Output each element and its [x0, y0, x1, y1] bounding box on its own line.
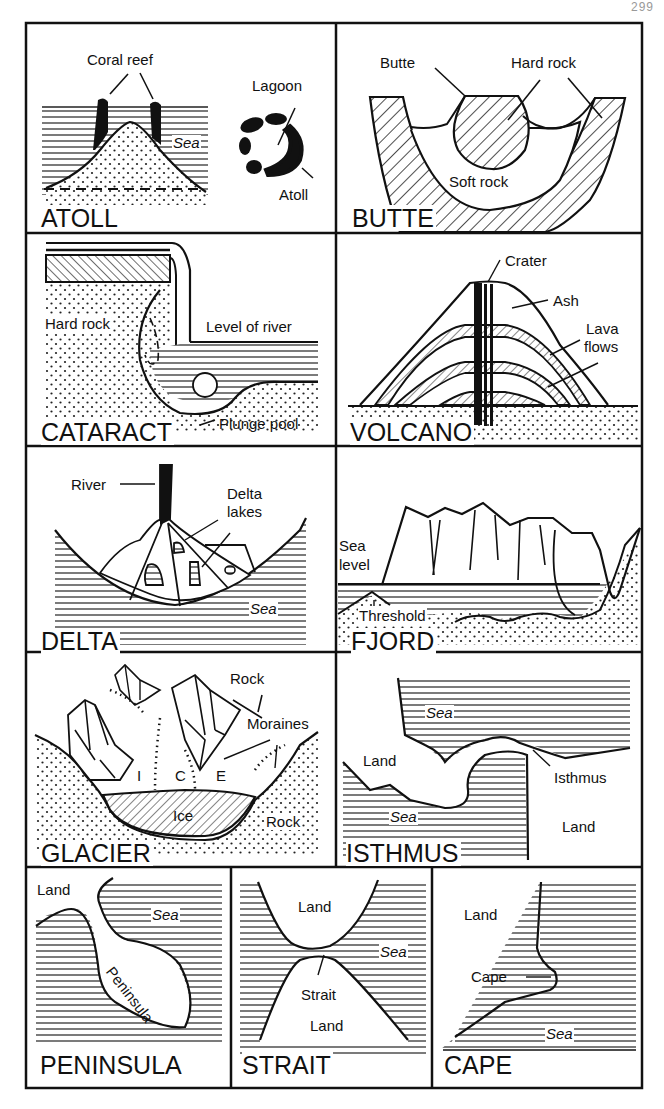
- cape-title: CAPE: [444, 1052, 514, 1078]
- butte-label-butte: Butte: [379, 55, 416, 71]
- fjord-label-threshold: Threshold: [358, 608, 427, 624]
- isthmus-label-sea-bottom: Sea: [389, 809, 418, 825]
- cataract-label-plunge-pool: Plunge pool: [218, 416, 299, 432]
- cape-label-sea: Sea: [545, 1026, 574, 1042]
- volcano-title: VOLCANO: [350, 419, 474, 445]
- delta-label-river: River: [70, 477, 107, 493]
- atoll-label-sea: Sea: [172, 135, 201, 151]
- isthmus-title: ISTHMUS: [346, 840, 461, 866]
- strait-label-land-bottom: Land: [309, 1018, 344, 1034]
- cape-label-cape: Cape: [470, 969, 508, 985]
- butte-label-hard-rock: Hard rock: [510, 55, 577, 71]
- cataract-diagram: [46, 243, 318, 432]
- cape-label-land: Land: [463, 907, 498, 923]
- glacier-label-c: C: [174, 768, 187, 784]
- peninsula-diagram: [36, 878, 222, 1046]
- delta-label-sea: Sea: [249, 601, 278, 617]
- peninsula-label-land: Land: [36, 882, 71, 898]
- fjord-label-level: level: [338, 557, 371, 573]
- atoll-title: ATOLL: [41, 205, 120, 231]
- atoll-label-coral-reef: Coral reef: [86, 52, 154, 68]
- delta-label-delta: Delta: [226, 486, 263, 502]
- isthmus-label-land-right: Land: [561, 819, 596, 835]
- strait-label-strait: Strait: [300, 987, 337, 1003]
- cataract-label-level-of-river: Level of river: [205, 319, 293, 335]
- glacier-label-moraines: Moraines: [246, 716, 310, 732]
- glacier-label-e: E: [215, 768, 227, 784]
- glacier-label-rock-bottom: Rock: [265, 814, 301, 830]
- cataract-label-hard-rock: Hard rock: [44, 316, 111, 332]
- delta-label-lakes: lakes: [226, 504, 263, 520]
- glacier-label-rock-top: Rock: [229, 671, 265, 687]
- volcano-label-ash: Ash: [552, 293, 580, 309]
- atoll-label-lagoon: Lagoon: [251, 78, 303, 94]
- atoll-label-atoll: Atoll: [278, 187, 309, 203]
- isthmus-label-sea-top: Sea: [425, 705, 454, 721]
- fjord-label-sea: Sea: [338, 538, 367, 554]
- strait-label-sea: Sea: [379, 944, 408, 960]
- butte-title: BUTTE: [352, 205, 436, 231]
- volcano-label-flows: flows: [583, 339, 619, 355]
- isthmus-label-isthmus: Isthmus: [553, 770, 608, 786]
- cataract-title: CATARACT: [41, 419, 174, 445]
- butte-label-soft-rock: Soft rock: [448, 174, 509, 190]
- peninsula-label-sea: Sea: [151, 907, 180, 923]
- glacier-label-ice: Ice: [172, 808, 194, 824]
- glacier-label-i: I: [136, 768, 142, 784]
- fjord-title: FJORD: [351, 628, 436, 654]
- delta-title: DELTA: [41, 628, 120, 654]
- strait-title: STRAIT: [242, 1052, 333, 1078]
- isthmus-label-land-left: Land: [362, 753, 397, 769]
- volcano-label-lava: Lava: [585, 321, 620, 337]
- peninsula-title: PENINSULA: [40, 1052, 184, 1078]
- volcano-label-crater: Crater: [504, 253, 548, 269]
- strait-label-land-top: Land: [297, 899, 332, 915]
- glacier-title: GLACIER: [41, 840, 153, 866]
- landforms-diagram: [0, 0, 664, 1109]
